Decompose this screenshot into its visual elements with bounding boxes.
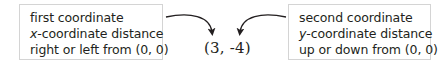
second-coordinate-label-box: second coordinate y-coordinate distance …	[288, 4, 431, 60]
y-direction-description: up or down from (0, 0)	[299, 42, 430, 58]
ordered-pair: (3, -4)	[204, 39, 251, 57]
y-coordinate-description: y-coordinate distance	[299, 26, 430, 42]
y-coordinate-description-text: -coordinate distance	[306, 26, 432, 41]
right-arrow-icon	[240, 15, 286, 32]
left-arrow-icon	[166, 15, 212, 32]
second-coordinate-title: second coordinate	[299, 10, 430, 26]
